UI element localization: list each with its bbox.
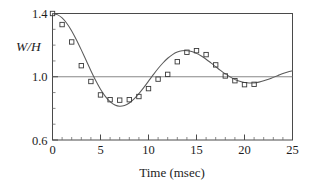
y-axis-ticks — [53, 14, 59, 141]
data-point-marker — [166, 72, 170, 76]
data-point-marker — [118, 98, 122, 102]
data-point-marker — [242, 82, 246, 86]
data-point-marker — [175, 60, 179, 64]
y-tick-label: 0.6 — [32, 134, 48, 148]
y-tick-label: 1.0 — [32, 70, 48, 84]
figure-container: 0510152025 0.61.01.4 Time (msec) W/H — [0, 0, 318, 184]
data-point-marker — [156, 77, 160, 81]
data-point-marker — [223, 74, 227, 78]
y-axis-tick-labels: 0.61.01.4 — [32, 7, 48, 148]
x-axis-ticks — [53, 135, 293, 141]
data-point-marker — [127, 97, 131, 101]
data-point-marker — [185, 50, 189, 54]
damped-oscillation-chart: 0510152025 0.61.01.4 Time (msec) W/H — [0, 0, 318, 184]
data-point-marker — [252, 82, 256, 86]
data-point-marker — [204, 52, 208, 56]
data-point-marker — [89, 79, 93, 83]
data-point-marker — [108, 97, 112, 101]
x-tick-label: 15 — [190, 143, 203, 157]
x-tick-label: 25 — [286, 143, 299, 157]
y-tick-label: 1.4 — [32, 7, 48, 21]
data-point-marker — [70, 40, 74, 44]
x-tick-label: 5 — [97, 143, 103, 157]
x-tick-label: 20 — [238, 143, 251, 157]
y-axis-title: W/H — [16, 39, 42, 54]
model-fit-curve — [53, 14, 293, 107]
x-tick-label: 10 — [142, 143, 155, 157]
data-point-markers — [50, 11, 256, 102]
data-point-marker — [146, 86, 150, 90]
data-point-marker — [60, 22, 64, 26]
data-point-marker — [50, 11, 54, 15]
data-point-marker — [98, 93, 102, 97]
x-tick-label: 0 — [49, 143, 55, 157]
data-point-marker — [79, 63, 83, 67]
data-point-marker — [194, 48, 198, 52]
data-point-marker — [233, 79, 237, 83]
data-point-marker — [214, 63, 218, 67]
data-point-marker — [137, 94, 141, 98]
x-axis-title: Time (msec) — [139, 165, 205, 180]
x-axis-tick-labels: 0510152025 — [49, 143, 298, 157]
